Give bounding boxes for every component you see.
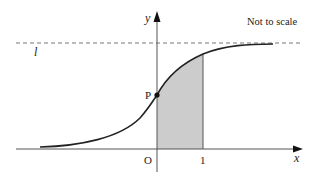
x-axis-label: x [293,151,300,165]
y-axis-arrow-icon [154,11,161,22]
origin-label: O [144,154,152,166]
y-axis-label: y [144,11,151,25]
x-tick-1-label: 1 [200,154,206,166]
asymptote-label: l [34,45,38,59]
point-p-label: P [145,89,151,101]
point-p [154,92,159,97]
not-to-scale-note: Not to scale [247,16,297,27]
diagram-canvas: y x O 1 P l Not to scale [0,0,316,175]
